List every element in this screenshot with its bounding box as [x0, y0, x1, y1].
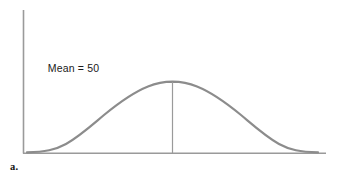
figure-panel: Mean = 50 a. [0, 0, 341, 177]
normal-distribution-chart [0, 0, 341, 177]
panel-caption: a. [10, 161, 18, 173]
